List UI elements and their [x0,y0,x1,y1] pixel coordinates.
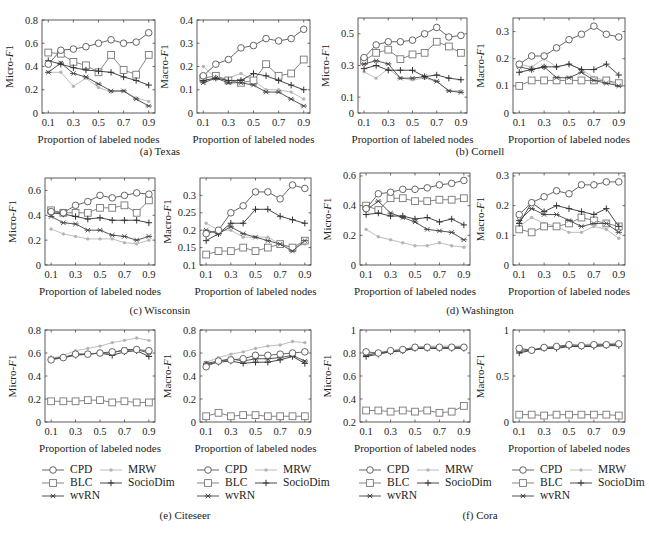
x-tick-label: 0.7 [118,269,131,280]
y-axis-label: Macro-F1 [474,197,486,242]
y-tick-label: 0.6 [183,348,196,359]
x-tick-label: 0.9 [457,426,470,437]
y-axis-label: Macro-F1 [161,199,173,244]
series-cpd [48,346,152,363]
x-tick-label: 0.5 [93,269,106,280]
legend-label: wvRN [225,489,255,502]
x-tick-label: 0.1 [513,269,526,280]
x-tick-label: 0.3 [224,269,237,280]
x-tick-label: 0.1 [200,269,213,280]
y-tick-label: 0.8 [28,325,41,336]
y-tick-label: 0 [349,108,354,119]
y-axis-label: Macro-F1 [158,44,170,89]
legend-marker-blc-icon [510,476,536,489]
series-blc [516,411,622,419]
x-tick-label: 0.3 [69,426,82,437]
x-tick-label: 0.9 [298,426,311,437]
legend-marker-sociodim-icon [253,476,279,489]
chart-wisconsin-macro: 0.10.30.50.70.90.10.150.20.250.3Macro-F1… [161,178,316,297]
y-tick-label: 0.6 [25,38,38,49]
legend-marker-blc-icon [195,476,221,489]
x-tick-label: 0.9 [297,117,310,128]
x-tick-label: 0.5 [93,426,106,437]
x-tick-label: 0.3 [222,117,235,128]
legend: CPDMRWBLCSocioDimwvRN [357,463,507,505]
legend-label: BLC [387,476,409,489]
series-blc [363,403,468,417]
legend-marker-sociodim-icon [415,476,441,489]
x-tick-label: 0.3 [224,426,237,437]
caption-texas: (a) Texas [60,145,260,157]
chart-cornell-macro: 0.10.30.50.70.900.10.20.3Macro-F1Proport… [474,18,630,145]
legend-marker-sociodim-icon [568,476,594,489]
x-tick-label: 0.7 [587,426,600,437]
x-tick-label: 0.3 [382,117,395,128]
chart-texas-micro: 0.10.30.50.70.900.20.40.60.8Micro-F1Prop… [3,15,159,146]
legend-label: wvRN [540,489,570,502]
x-tick-label: 0.3 [69,269,82,280]
y-tick-label: 0.1 [341,92,354,103]
y-axis-label: Micro-F1 [6,355,18,398]
legend-label: BLC [70,476,92,489]
y-tick-label: 0.3 [180,38,193,49]
y-tick-label: 0 [33,108,38,119]
legend: CPDMRWBLCSocioDimwvRN [195,463,345,505]
plot-frame [45,330,155,422]
x-tick-label: 0.5 [406,117,419,128]
x-tick-label: 0.9 [454,117,467,128]
legend-marker-sociodim-icon [98,476,124,489]
y-tick-label: 0 [504,417,509,428]
y-tick-label: 0.6 [343,371,356,382]
y-axis-label: Macro-F1 [474,354,486,399]
y-tick-label: 0.5 [496,371,509,382]
legend-label: MRW [128,463,156,476]
x-axis-label: Proportion of labeled nodes [354,442,476,454]
series-wvrn [45,61,152,108]
legend-label: MRW [598,463,626,476]
x-tick-label: 0.3 [384,426,397,437]
series-sociodim [363,210,467,228]
chart-cora-macro: 0.10.30.50.70.900.51Macro-F1Proportion o… [474,325,630,455]
x-tick-label: 0.5 [249,426,262,437]
y-tick-label: 0.4 [343,394,357,405]
chart-citeseer-micro: 0.10.30.50.70.900.20.40.60.8Micro-F1Prop… [6,325,161,455]
legend-label: CPD [70,463,92,476]
x-tick-label: 0.7 [433,426,446,437]
y-axis-label: Micro-F1 [321,198,333,241]
y-tick-label: 0.1 [496,80,509,91]
x-tick-label: 0.5 [92,117,105,128]
legend-marker-wvrn-icon [357,489,383,502]
y-tick-label: 1 [504,325,509,336]
series-cpd [516,179,622,218]
legend: CPDMRWBLCSocioDimwvRN [510,463,649,505]
y-tick-label: 0.4 [28,210,42,221]
x-tick-label: 0.3 [384,269,397,280]
y-tick-label: 0.1 [496,230,509,241]
legend-label: SocioDim [445,476,492,489]
legend-label: MRW [283,463,311,476]
x-axis-label: Proportion of labeled nodes [195,285,317,297]
y-tick-label: 0.2 [180,61,193,72]
y-tick-label: 0.4 [343,200,357,211]
chart-wisconsin-micro: 0.10.30.50.70.900.20.40.6Micro-F1Proport… [6,178,161,297]
legend-marker-cpd-icon [510,463,536,476]
caption-washington: (d) Washington [380,304,580,316]
x-tick-label: 0.9 [612,269,625,280]
y-tick-label: 0.1 [183,260,196,271]
legend-marker-cpd-icon [357,463,383,476]
x-tick-label: 0.5 [562,426,575,437]
chart-texas-macro: 0.10.30.50.70.900.10.20.30.4Macro-F1Prop… [158,15,314,146]
x-tick-label: 0.1 [360,426,373,437]
y-tick-label: 0.3 [496,26,509,37]
legend-marker-mrw-icon [415,463,441,476]
x-tick-label: 0.5 [408,426,421,437]
y-axis-label: Micro-F1 [6,200,18,243]
y-tick-label: 0.1 [180,84,193,95]
y-tick-label: 0 [504,260,509,271]
y-tick-label: 0.15 [178,242,196,253]
y-axis-label: Micro-F1 [319,44,331,87]
x-axis-label: Proportion of labeled nodes [508,285,630,297]
y-tick-label: 0.2 [183,225,196,236]
y-tick-label: 0.6 [28,348,41,359]
x-tick-label: 0.3 [538,117,551,128]
